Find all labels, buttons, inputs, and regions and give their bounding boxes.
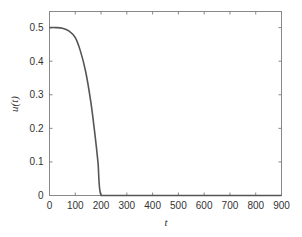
line-chart: 0100200300400500600700800900 00.10.20.30… bbox=[0, 0, 302, 237]
x-tick-label: 800 bbox=[247, 200, 264, 211]
x-tick-label: 0 bbox=[47, 200, 53, 211]
series-line-u bbox=[50, 28, 282, 196]
x-tick-label: 700 bbox=[222, 200, 239, 211]
y-axis-label: u(t) bbox=[8, 96, 21, 112]
y-axis-ticks: 00.10.20.30.40.5 bbox=[30, 22, 282, 201]
x-tick-label: 400 bbox=[144, 200, 161, 211]
x-tick-label: 300 bbox=[118, 200, 135, 211]
y-tick-label: 0.2 bbox=[30, 123, 44, 134]
x-tick-label: 900 bbox=[273, 200, 290, 211]
x-tick-label: 100 bbox=[67, 200, 84, 211]
y-tick-label: 0.1 bbox=[30, 156, 44, 167]
x-axis-label: t bbox=[164, 216, 168, 228]
x-tick-label: 600 bbox=[196, 200, 213, 211]
x-axis-ticks: 0100200300400500600700800900 bbox=[47, 12, 291, 211]
y-tick-label: 0 bbox=[38, 190, 44, 201]
y-tick-label: 0.5 bbox=[30, 22, 44, 33]
y-tick-label: 0.3 bbox=[30, 89, 44, 100]
x-tick-label: 500 bbox=[170, 200, 187, 211]
x-tick-label: 200 bbox=[93, 200, 110, 211]
plot-frame bbox=[50, 12, 282, 196]
y-tick-label: 0.4 bbox=[30, 56, 44, 67]
